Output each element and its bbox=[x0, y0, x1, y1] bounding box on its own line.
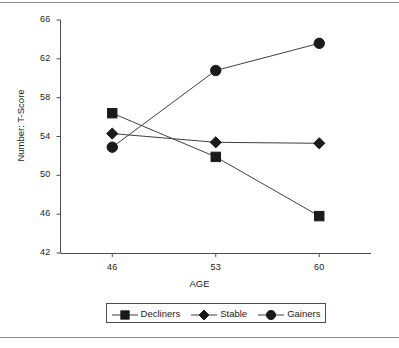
y-tick-label: 66 bbox=[29, 14, 51, 24]
data-point-gainers bbox=[314, 38, 324, 48]
series-line-decliners bbox=[112, 113, 319, 216]
y-axis-tick-marks bbox=[57, 20, 61, 253]
y-tick-label: 58 bbox=[29, 92, 51, 102]
x-axis-title: AGE bbox=[0, 278, 399, 289]
y-tick-label: 46 bbox=[29, 208, 51, 218]
data-point-decliners bbox=[108, 109, 117, 118]
y-tick-label: 50 bbox=[29, 169, 51, 179]
data-point-stable bbox=[210, 137, 221, 148]
chart-legend: DeclinersStableGainers bbox=[106, 303, 326, 323]
data-point-gainers bbox=[211, 65, 221, 75]
series-markers bbox=[107, 38, 325, 221]
x-tick-label: 53 bbox=[201, 262, 231, 272]
legend-entry-stable[interactable]: Stable bbox=[191, 307, 247, 319]
data-point-stable bbox=[107, 128, 118, 139]
legend-marker-diamond-icon bbox=[191, 307, 217, 319]
x-tick-label: 60 bbox=[304, 262, 334, 272]
legend-label: Decliners bbox=[141, 308, 181, 319]
data-point-stable bbox=[314, 138, 325, 149]
legend-label: Gainers bbox=[287, 308, 320, 319]
legend-entry-gainers[interactable]: Gainers bbox=[258, 307, 320, 319]
x-tick-label: 46 bbox=[97, 262, 127, 272]
y-axis-title: Number: T-Score bbox=[15, 66, 26, 186]
line-chart-plot bbox=[0, 0, 399, 348]
y-tick-label: 42 bbox=[29, 247, 51, 257]
data-point-decliners bbox=[315, 211, 324, 220]
data-point-decliners bbox=[211, 152, 220, 161]
figure-container: 42465054586266 465360 Number: T-Score AG… bbox=[0, 0, 399, 348]
series-line-gainers bbox=[112, 43, 319, 147]
legend-marker-square-icon bbox=[112, 307, 138, 319]
data-point-gainers bbox=[107, 142, 117, 152]
y-tick-label: 62 bbox=[29, 53, 51, 63]
legend-entry-decliners[interactable]: Decliners bbox=[112, 307, 181, 319]
y-tick-label: 54 bbox=[29, 131, 51, 141]
legend-label: Stable bbox=[220, 308, 247, 319]
legend-marker-circle-icon bbox=[258, 307, 284, 319]
